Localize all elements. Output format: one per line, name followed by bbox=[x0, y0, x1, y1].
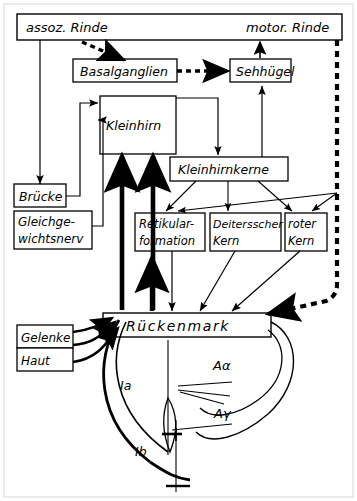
efferent-a-alpha-branches bbox=[178, 382, 232, 404]
diagram-canvas: assoz. Rinde motor. Rinde Basalganglien … bbox=[0, 0, 357, 501]
muscle-spindle bbox=[164, 398, 176, 452]
label-gelenke: Gelenke bbox=[21, 331, 70, 345]
connector-bruecke-to-kleinhirn bbox=[66, 103, 98, 196]
connector-cortex-trunk-to-retikularformation bbox=[178, 193, 337, 211]
label-retikularformation-line2: formation bbox=[139, 234, 195, 248]
label-roter-kern-line2: Kern bbox=[288, 234, 314, 248]
diagram-svg: assoz. Rinde motor. Rinde Basalganglien … bbox=[0, 0, 357, 501]
label-bruecke: Brücke bbox=[19, 189, 63, 204]
label-rueckenmark: Rückenmark bbox=[126, 318, 230, 334]
connector-kleinhirnkerne-to-retikularformation bbox=[166, 181, 196, 211]
connector-deitersscher-kern-to-rueckenmark bbox=[200, 251, 235, 311]
label-ia: Ia bbox=[120, 378, 131, 393]
label-gleichgewichtsnerv-line2: wichtsnerv bbox=[18, 232, 84, 246]
label-assoz-rinde: assoz. Rinde bbox=[26, 20, 108, 35]
efferent-a-alpha-loop bbox=[196, 322, 294, 439]
efferent-a-gamma-branch bbox=[172, 424, 232, 430]
label-sehhuegel: Sehhügel bbox=[236, 64, 295, 79]
connector-kleinhirn-to-kleinhirnkerne bbox=[176, 98, 218, 155]
label-haut: Haut bbox=[21, 354, 51, 368]
label-retikularformation-line1: Retikular- bbox=[139, 217, 194, 231]
connector-kleinhirnkerne-to-roter-kern bbox=[258, 181, 292, 211]
connector-roter-kern-to-rueckenmark bbox=[232, 251, 300, 311]
label-kleinhirnkerne: Kleinhirnkerne bbox=[178, 162, 269, 177]
label-a-alpha: Aα bbox=[212, 358, 231, 373]
label-roter-kern-line1: roter bbox=[288, 217, 317, 231]
label-basalganglien: Basalganglien bbox=[80, 64, 168, 79]
label-a-gamma: Aγ bbox=[213, 406, 232, 421]
label-deitersscher-kern-line1: Deitersscher bbox=[213, 218, 284, 231]
label-kleinhirn: Kleinhirn bbox=[106, 118, 161, 133]
connector-cortex-to-basalganglien bbox=[82, 42, 124, 60]
label-gleichgewichtsnerv-line1: Gleichge- bbox=[18, 215, 75, 229]
label-deitersscher-kern-line2: Kern bbox=[213, 234, 239, 248]
afferent-ib-loop bbox=[150, 462, 190, 480]
label-motor-rinde: motor. Rinde bbox=[246, 20, 329, 35]
label-ib: Ib bbox=[135, 444, 147, 459]
